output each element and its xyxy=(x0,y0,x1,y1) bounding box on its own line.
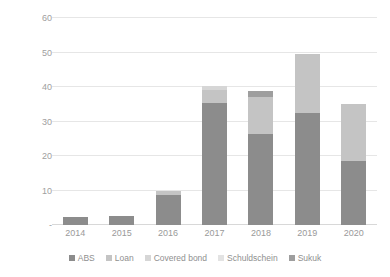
bar-stack xyxy=(202,86,227,225)
legend-item[interactable]: Sukuk xyxy=(289,253,322,263)
bar-group xyxy=(202,18,227,225)
y-tick-label: 60 xyxy=(18,13,52,23)
legend-swatch-icon xyxy=(106,255,112,261)
bar-segment xyxy=(295,54,320,113)
legend-label: Sukuk xyxy=(298,253,322,263)
x-axis-tick-labels: 2014201520162017201820192020 xyxy=(52,228,377,244)
bar-group xyxy=(63,18,88,225)
bar-segment xyxy=(341,161,366,226)
y-tick-label: 40 xyxy=(18,82,52,92)
bar-group xyxy=(156,18,181,225)
legend-item[interactable]: ABS xyxy=(69,253,95,263)
x-tick-label: 2016 xyxy=(158,228,178,238)
bar-stack xyxy=(295,54,320,225)
bar-stack xyxy=(156,191,181,225)
bar-segment xyxy=(63,217,88,225)
bar-group xyxy=(248,18,273,225)
bar-segment xyxy=(248,97,273,134)
legend-label: Schuldschein xyxy=(227,253,278,263)
plot-area xyxy=(52,18,377,225)
stacked-bar-chart: USD Billions -102030405060 2014201520162… xyxy=(0,0,390,277)
y-tick-label: 10 xyxy=(18,186,52,196)
legend-swatch-icon xyxy=(145,255,151,261)
bar-segment xyxy=(202,90,227,102)
legend-item[interactable]: Loan xyxy=(106,253,134,263)
x-tick-label: 2014 xyxy=(65,228,85,238)
legend-item[interactable]: Covered bond xyxy=(145,253,207,263)
bar-stack xyxy=(341,104,366,225)
bar-segment xyxy=(248,134,273,225)
legend-item[interactable]: Schuldschein xyxy=(218,253,278,263)
legend-label: Loan xyxy=(115,253,134,263)
x-tick-label: 2018 xyxy=(251,228,271,238)
bar-segment xyxy=(202,103,227,225)
bar-segment xyxy=(295,113,320,225)
legend-swatch-icon xyxy=(218,255,224,261)
bar-group xyxy=(341,18,366,225)
bar-stack xyxy=(109,216,134,225)
x-tick-label: 2017 xyxy=(204,228,224,238)
bars-layer xyxy=(52,18,377,225)
y-axis-tick-labels: -102030405060 xyxy=(10,18,52,225)
y-tick-label: - xyxy=(18,220,52,230)
chart-legend: ABSLoanCovered bondSchuldscheinSukuk xyxy=(0,253,390,263)
y-tick-label: 50 xyxy=(18,48,52,58)
legend-swatch-icon xyxy=(289,255,295,261)
bar-segment xyxy=(341,104,366,160)
bar-stack xyxy=(248,91,273,225)
x-tick-label: 2015 xyxy=(112,228,132,238)
bar-group xyxy=(109,18,134,225)
bar-segment xyxy=(109,216,134,225)
x-tick-label: 2020 xyxy=(344,228,364,238)
legend-swatch-icon xyxy=(69,255,75,261)
legend-label: Covered bond xyxy=(154,253,207,263)
x-tick-label: 2019 xyxy=(297,228,317,238)
legend-label: ABS xyxy=(78,253,95,263)
bar-segment xyxy=(156,195,181,225)
y-tick-label: 20 xyxy=(18,151,52,161)
y-tick-label: 30 xyxy=(18,117,52,127)
bar-stack xyxy=(63,217,88,225)
bar-group xyxy=(295,18,320,225)
